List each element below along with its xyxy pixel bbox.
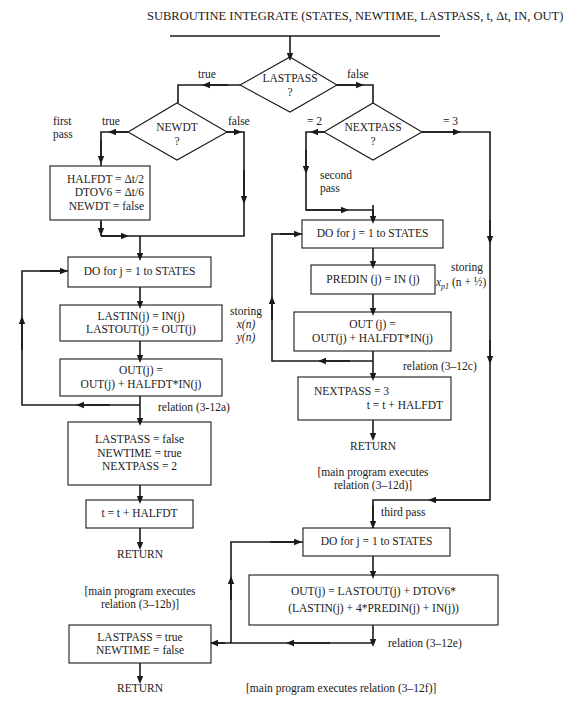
second-pass-label-2: pass — [320, 182, 340, 195]
box-set-flags-1-text: LASTPASS = false NEWTIME = true NEXTPASS… — [68, 422, 211, 485]
box-time-step-1-text: t = t + HALFDT — [86, 500, 193, 528]
flags-2-nextpass: NEXTPASS = 3 — [314, 385, 443, 399]
store-pred-label: PREDIN (j) = IN (j) — [326, 273, 419, 287]
box-do-loop-2-text: DO for j = 1 to STATES — [302, 220, 443, 248]
box-do-loop-1-text: DO for j = 1 to STATES — [68, 257, 211, 287]
decision-nextpass-q: ? — [327, 135, 419, 148]
second-pass-label-1: second — [320, 169, 352, 182]
storing-xp1-n: (n + ½) — [452, 276, 486, 288]
lastpass-false-label: false — [347, 68, 369, 81]
storing-yn: y(n) — [224, 331, 268, 344]
subroutine-title: SUBROUTINE INTEGRATE (STATES, NEWTIME, L… — [147, 10, 563, 23]
flags-3-lastpass: LASTPASS = true — [97, 631, 182, 645]
box-do-loop-3-text: DO for j = 1 to STATES — [303, 528, 450, 556]
nextpass-eq2-label: = 2 — [307, 115, 322, 128]
relation-a-label: relation (3-12a) — [158, 401, 230, 414]
third-pass-label: third pass — [381, 506, 425, 519]
box-simpson-text: OUT(j) = LASTOUT(j) + DTOV6* (LASTIN(j) … — [249, 575, 498, 625]
flags-1-lastpass: LASTPASS = false — [95, 433, 184, 447]
return-3: RETURN — [90, 682, 190, 695]
return-2: RETURN — [323, 440, 423, 453]
euler-1-line-1: OUT(j) = — [119, 364, 163, 378]
decision-lastpass-q: ? — [244, 86, 336, 99]
decision-newdt-label: NEWDT — [131, 121, 223, 134]
first-pass-label-1: first — [53, 115, 72, 128]
main-f-label: [main program executes relation (3–12f)] — [246, 682, 436, 695]
first-pass-label-2: pass — [53, 128, 73, 141]
box-euler-1-text: OUT(j) = OUT(j) + HALFDT*IN(j) — [60, 359, 222, 396]
box-set-flags-2-text: NEXTPASS = 3 t = t + HALFDT — [298, 377, 451, 420]
storing-xp1-sub: p1 — [441, 282, 449, 291]
flags-3-newtime: NEWTIME = false — [96, 644, 184, 658]
init-halfdt: HALFDT = Δt/2 — [67, 173, 144, 187]
store-lastout: LASTOUT(j) = OUT(j) — [86, 323, 196, 337]
box-store-pred-text: PREDIN (j) = IN (j) — [311, 265, 435, 294]
box-set-flags-3-text: LASTPASS = true NEWTIME = false — [69, 625, 211, 663]
storing-label-2: storing — [437, 261, 497, 274]
do-loop-3-label: DO for j = 1 to STATES — [321, 535, 433, 549]
lastpass-true-label: true — [198, 68, 216, 81]
relation-c-label: relation (3–12c) — [403, 360, 477, 373]
simpson-line-2: (LASTIN(j) + 4*PREDIN(j) + IN(j)) — [288, 600, 459, 617]
main-d-label-1: [main program executes — [295, 466, 451, 479]
init-newdt: NEWDT = false — [69, 200, 144, 214]
time-step-1-label: t = t + HALFDT — [101, 507, 177, 521]
newdt-false-label: false — [228, 115, 250, 128]
nextpass-eq3-label: = 3 — [443, 115, 458, 128]
storing-label-1: storing — [224, 305, 268, 318]
box-store-last-text: LASTIN(j) = IN(j) LASTOUT(j) = OUT(j) — [60, 305, 222, 341]
newdt-true-label: true — [102, 115, 120, 128]
decision-nextpass-label: NEXTPASS — [327, 121, 419, 134]
relation-e-label: relation (3–12e) — [388, 637, 462, 650]
box-euler-2-text: OUT (j) = OUT(j) + HALFDT*IN(j) — [294, 312, 451, 351]
decision-newdt-q: ? — [131, 135, 223, 148]
store-lastin: LASTIN(j) = IN(j) — [98, 310, 185, 324]
return-1: RETURN — [90, 548, 190, 561]
flags-2-time: t = t + HALFDT — [314, 399, 443, 413]
init-dtov6: DTOV6 = Δt/6 — [75, 186, 144, 200]
simpson-line-1: OUT(j) = LASTOUT(j) + DTOV6* — [291, 583, 456, 600]
main-b-label-1: [main program executes — [62, 585, 218, 598]
euler-1-line-2: OUT(j) + HALFDT*IN(j) — [81, 378, 202, 392]
storing-xn: x(n) — [224, 318, 268, 331]
euler-2-line-2: OUT(j) + HALFDT*IN(j) — [312, 332, 433, 346]
decision-lastpass-label: LASTPASS — [244, 72, 336, 85]
main-d-label-2: relation (3–12d)] — [295, 479, 451, 492]
do-loop-1-label: DO for j = 1 to STATES — [84, 265, 196, 279]
euler-2-line-1: OUT (j) = — [349, 318, 396, 332]
flags-1-newtime: NEWTIME = true — [97, 447, 181, 461]
do-loop-2-label: DO for j = 1 to STATES — [317, 227, 429, 241]
box-init-text: HALFDT = Δt/2 DTOV6 = Δt/6 NEWDT = false — [50, 166, 150, 220]
storing-xp1: xp1 (n + ½) — [436, 276, 486, 293]
flags-1-nextpass: NEXTPASS = 2 — [102, 460, 177, 474]
main-b-label-2: relation (3–12b)] — [62, 598, 218, 611]
